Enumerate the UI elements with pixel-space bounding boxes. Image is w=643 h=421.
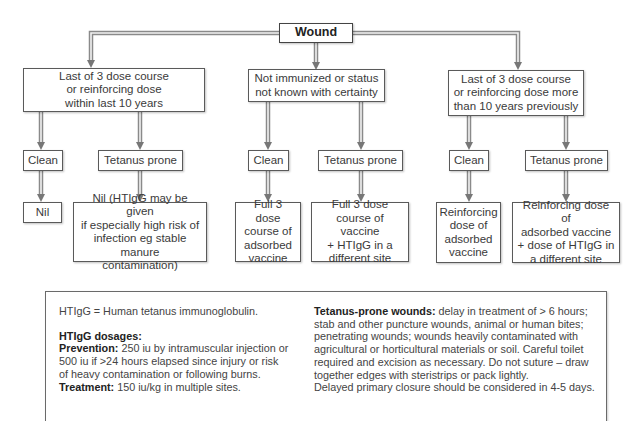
dosage-notes: HTIgG = Human tetanus immunoglobulin. HT… [59,305,329,393]
action-line: contamination) [78,259,202,273]
prone-label: Tetanus prone [530,154,603,168]
action-box-1-prone: Nil (HTIgG may be given if especially hi… [73,202,207,262]
action-line: if especially high risk of [78,219,202,233]
action-box-3-clean: Reinforcing dose of adsorbed vaccine [436,202,501,263]
clean-label: Clean [28,154,58,168]
action-line: adsorbed [240,239,296,253]
action-line: course of vaccine [316,212,404,239]
treatment-text: 150 iu/kg in multiple sites. [114,381,241,393]
action-line: Reinforcing dose of [517,199,615,226]
action-line: adsorbed vaccine [517,226,615,240]
prone-box-2: Tetanus prone [318,150,403,171]
action-line: dose of [439,219,497,233]
treatment-label: Treatment: [59,381,114,393]
prone-wounds-label: Tetanus-prone wounds: [314,305,436,317]
action-line: infection eg stable manure [78,232,202,259]
tetanus-prone-notes: Tetanus-prone wounds: delay in treatment… [314,305,604,394]
prevention-text: of heavy contamination or following burn… [59,368,329,381]
action-line: + dose of HTIgG in [517,239,615,253]
prone-box-1: Tetanus prone [98,150,183,171]
wound-label: Wound [295,26,337,40]
notes-panel: HTIgG = Human tetanus immunoglobulin. HT… [45,291,607,421]
action-line: different site [316,252,404,266]
action-box-2-clean: Full 3 dose course of adsorbed vaccine [235,202,301,262]
condition-line: or reinforcing dose more [454,86,579,100]
htigg-definition: HTIgG = Human tetanus immunoglobulin. [59,305,329,318]
prevention-text: 250 iu by intramuscular injection or [118,342,288,354]
action-line: adsorbed [439,233,497,247]
action-line: Full 3 dose [240,198,296,225]
action-line: Full 3 dose [316,198,404,212]
clean-box-2: Clean [248,150,289,171]
prone-text: agricultural or horticultural materials … [314,343,604,356]
prone-text: delay in treatment of > 6 hours; [436,305,588,317]
prone-text: together edges with steristrips or pack … [314,369,604,382]
prevention-text: 500 iu if >24 hours elapsed since injury… [59,355,329,368]
action-line: Reinforcing [439,206,497,220]
action-line: vaccine [439,246,497,260]
dosages-heading: HTIgG dosages: [59,330,329,343]
condition-line: Last of 3 dose course [454,73,579,87]
action-box-3-prone: Reinforcing dose of adsorbed vaccine + d… [512,202,620,263]
clean-box-1: Clean [23,150,63,171]
prone-text: stab and other puncture wounds, animal o… [314,318,604,331]
prone-label: Tetanus prone [104,154,177,168]
prone-text: required and excision as necessary. Do n… [314,356,604,369]
action-box-1-clean: Nil [23,202,62,223]
condition-box-not-immunized: Not immunized or status not known with c… [248,69,385,102]
condition-line: within last 10 years [59,97,169,111]
action-box-2-prone: Full 3 dose course of vaccine + HTIgG in… [311,202,409,262]
condition-line: Last of 3 dose course [59,70,169,84]
clean-label: Clean [454,154,484,168]
action-line: + HTIgG in a [316,239,404,253]
clean-box-3: Clean [449,150,489,171]
clean-label: Clean [253,154,283,168]
action-line: Nil [36,206,49,220]
condition-line: not known with certainty [255,86,379,100]
action-line: Nil (HTIgG may be given [78,192,202,219]
prone-label: Tetanus prone [324,154,397,168]
wound-root-box: Wound [279,23,353,43]
condition-line: Not immunized or status [255,72,379,86]
condition-box-recent-dose: Last of 3 dose course or reinforcing dos… [23,68,205,112]
prone-text: Delayed primary closure should be consid… [314,381,604,394]
condition-line: than 10 years previously [454,100,579,114]
prevention-label: Prevention: [59,342,118,354]
condition-line: or reinforcing dose [59,83,169,97]
prone-box-3: Tetanus prone [525,150,608,171]
prone-text: penetrating wounds; wounds heavily conta… [314,330,604,343]
action-line: course of [240,225,296,239]
action-line: vaccine [240,252,296,266]
condition-box-old-dose: Last of 3 dose course or reinforcing dos… [448,70,584,116]
action-line: a different site [517,253,615,267]
